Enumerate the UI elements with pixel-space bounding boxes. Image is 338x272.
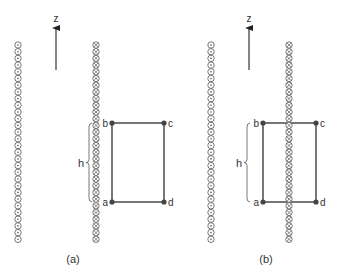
current-out-dot-icon: [15, 209, 21, 215]
current-out-dot-icon: [208, 116, 214, 122]
current-out-dot-icon: [208, 223, 214, 229]
z-axis-label: z: [247, 13, 252, 24]
current-in-cross-icon: [93, 55, 99, 61]
right-wire-column: [93, 42, 99, 243]
current-in-cross-icon: [286, 116, 292, 122]
current-out-dot-icon: [208, 89, 214, 95]
height-label: h: [236, 157, 242, 169]
current-out-dot-icon: [15, 236, 21, 242]
panel-caption: (b): [259, 253, 272, 265]
current-out-dot-icon: [208, 49, 214, 55]
current-in-cross-icon: [286, 55, 292, 61]
current-out-dot-icon: [208, 229, 214, 235]
current-in-cross-icon: [286, 183, 292, 189]
current-out-dot-icon: [208, 95, 214, 101]
corner-point-c: [313, 120, 318, 125]
diagram-stage: zbcadh(a) zbcadh(b): [0, 0, 338, 272]
current-out-dot-icon: [208, 169, 214, 175]
current-in-cross-icon: [93, 82, 99, 88]
current-out-dot-icon: [208, 196, 214, 202]
current-in-cross-icon: [286, 216, 292, 222]
height-label: h: [78, 157, 84, 169]
current-out-dot-icon: [15, 89, 21, 95]
current-in-cross-icon: [93, 62, 99, 68]
current-out-dot-icon: [208, 216, 214, 222]
current-out-dot-icon: [15, 183, 21, 189]
corner-label-b: b: [253, 118, 259, 129]
current-out-dot-icon: [15, 189, 21, 195]
current-in-cross-icon: [93, 116, 99, 122]
current-in-cross-icon: [93, 95, 99, 101]
current-out-dot-icon: [208, 82, 214, 88]
corner-point-b: [109, 120, 114, 125]
left-wire-column: [208, 42, 214, 243]
corner-label-a: a: [102, 197, 108, 208]
current-in-cross-icon: [93, 109, 99, 115]
current-in-cross-icon: [286, 82, 292, 88]
current-in-cross-icon: [93, 122, 99, 128]
panel-caption: (a): [66, 253, 79, 265]
corner-label-a: a: [253, 197, 259, 208]
corner-point-a: [260, 199, 265, 204]
current-out-dot-icon: [15, 203, 21, 209]
current-in-cross-icon: [286, 236, 292, 242]
current-out-dot-icon: [208, 176, 214, 182]
current-in-cross-icon: [93, 196, 99, 202]
current-out-dot-icon: [208, 42, 214, 48]
current-out-dot-icon: [15, 229, 21, 235]
current-out-dot-icon: [15, 102, 21, 108]
corner-point-d: [161, 199, 166, 204]
corner-label-d: d: [320, 197, 326, 208]
current-out-dot-icon: [15, 129, 21, 135]
corner-point-d: [313, 199, 318, 204]
current-in-cross-icon: [93, 42, 99, 48]
current-in-cross-icon: [286, 196, 292, 202]
current-out-dot-icon: [15, 42, 21, 48]
current-out-dot-icon: [15, 122, 21, 128]
current-out-dot-icon: [208, 129, 214, 135]
current-out-dot-icon: [208, 189, 214, 195]
current-in-cross-icon: [286, 136, 292, 142]
current-out-dot-icon: [208, 236, 214, 242]
current-in-cross-icon: [286, 176, 292, 182]
current-in-cross-icon: [286, 89, 292, 95]
current-out-dot-icon: [208, 109, 214, 115]
current-in-cross-icon: [93, 169, 99, 175]
current-in-cross-icon: [93, 176, 99, 182]
current-out-dot-icon: [208, 203, 214, 209]
current-in-cross-icon: [286, 49, 292, 55]
current-out-dot-icon: [15, 95, 21, 101]
current-out-dot-icon: [208, 75, 214, 81]
corner-label-b: b: [102, 118, 108, 129]
corner-point-c: [161, 120, 166, 125]
panel-b: zbcadh(b): [208, 13, 326, 265]
current-in-cross-icon: [286, 209, 292, 215]
current-in-cross-icon: [286, 129, 292, 135]
current-out-dot-icon: [208, 69, 214, 75]
current-out-dot-icon: [15, 69, 21, 75]
current-in-cross-icon: [93, 209, 99, 215]
current-in-cross-icon: [93, 102, 99, 108]
current-out-dot-icon: [208, 102, 214, 108]
current-out-dot-icon: [15, 176, 21, 182]
current-in-cross-icon: [286, 203, 292, 209]
current-out-dot-icon: [15, 82, 21, 88]
current-in-cross-icon: [286, 102, 292, 108]
current-out-dot-icon: [15, 49, 21, 55]
height-brace: [244, 123, 250, 202]
current-out-dot-icon: [15, 149, 21, 155]
height-brace: [86, 123, 92, 202]
corner-label-c: c: [320, 118, 325, 129]
left-wire-column: [15, 42, 21, 243]
current-out-dot-icon: [208, 122, 214, 128]
current-out-dot-icon: [15, 75, 21, 81]
current-in-cross-icon: [93, 75, 99, 81]
current-out-dot-icon: [208, 162, 214, 168]
current-in-cross-icon: [93, 69, 99, 75]
current-in-cross-icon: [286, 42, 292, 48]
right-wire-column: [286, 42, 292, 243]
current-out-dot-icon: [15, 116, 21, 122]
current-in-cross-icon: [286, 142, 292, 148]
current-in-cross-icon: [93, 229, 99, 235]
current-in-cross-icon: [93, 223, 99, 229]
